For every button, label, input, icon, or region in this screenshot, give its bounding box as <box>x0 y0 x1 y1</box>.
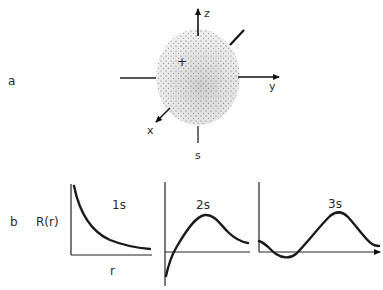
diagonal-pointer-line <box>230 30 244 45</box>
panel-b-label: b <box>10 215 18 229</box>
plus-sign: + <box>177 55 187 69</box>
y-axis-label: y <box>269 80 276 93</box>
plot-2s-curve <box>166 215 248 276</box>
plot-1s-title: 1s <box>112 198 126 212</box>
x-axis-label: x <box>147 124 154 137</box>
x-axis-arrow <box>156 108 170 122</box>
plot-2s-title: 2s <box>196 198 210 212</box>
z-axis-label: z <box>204 7 210 20</box>
figure-canvas: a + z y x s b R(r) 1s <box>0 0 383 290</box>
plot-1s: 1s r <box>71 184 152 278</box>
plot-3s: 3s <box>259 182 380 257</box>
plot-1s-curve <box>74 186 150 249</box>
s-label: s <box>195 149 201 162</box>
plot-3s-title: 3s <box>328 197 342 211</box>
s-orbital-sphere <box>156 29 240 125</box>
panel-b: b R(r) 1s r 2s 3s <box>10 182 380 286</box>
plot-2s: 2s <box>165 182 250 286</box>
x-axis-title: r <box>110 264 115 278</box>
panel-a: a + z y x s <box>8 7 279 162</box>
panel-a-label: a <box>8 74 15 88</box>
y-axis-title: R(r) <box>36 215 59 229</box>
plot-3s-curve <box>259 212 379 257</box>
